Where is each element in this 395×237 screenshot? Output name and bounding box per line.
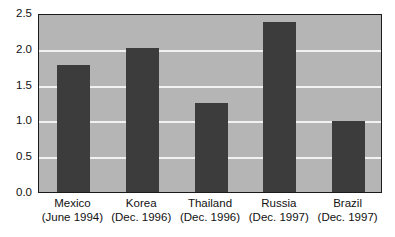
y-axis-tick-label: 2.5 xyxy=(16,8,32,20)
bars-layer xyxy=(39,15,381,192)
plot-area xyxy=(38,14,382,193)
bar-russia xyxy=(263,22,296,192)
y-axis-tick-label: 2.0 xyxy=(16,44,32,56)
x-axis-date-label: (Dec. 1997) xyxy=(303,210,393,224)
x-axis-tick-brazil: Brazil(Dec. 1997) xyxy=(303,196,393,225)
y-axis-tick-label: 0.5 xyxy=(16,151,32,163)
x-axis-country-label: Brazil xyxy=(303,196,393,210)
bar-chart-figure: 0.00.51.01.52.02.5 Mexico(June 1994)Kore… xyxy=(0,0,395,237)
bar-thailand xyxy=(195,103,228,193)
y-axis-tick-label: 1.5 xyxy=(16,80,32,92)
bar-korea xyxy=(126,48,159,192)
bar-mexico xyxy=(57,65,90,192)
y-axis-tick-label: 1.0 xyxy=(16,115,32,127)
x-axis: Mexico(June 1994)Korea(Dec. 1996)Thailan… xyxy=(38,196,382,236)
bar-brazil xyxy=(332,121,365,192)
